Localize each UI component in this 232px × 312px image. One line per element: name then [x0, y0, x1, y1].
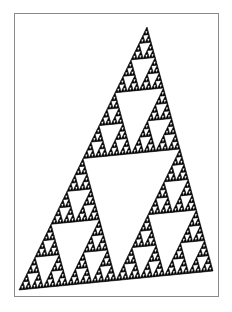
fractal-triangles — [19, 27, 213, 290]
sierpinski-triangle — [0, 0, 232, 312]
